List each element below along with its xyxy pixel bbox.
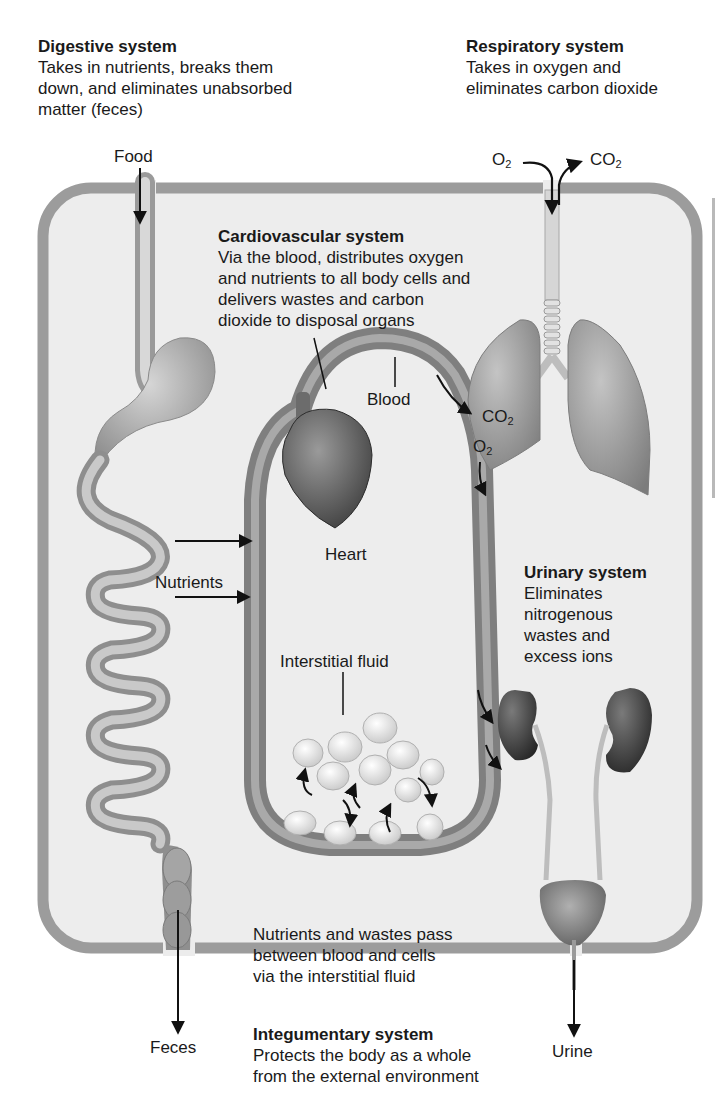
food-label: Food: [114, 147, 153, 167]
urinary-line: excess ions: [524, 646, 647, 667]
o2-text: O: [473, 437, 486, 456]
digestive-system-caption: Digestive system Takes in nutrients, bre…: [38, 36, 292, 120]
blood-label: Blood: [367, 390, 410, 410]
co2-text: CO: [590, 150, 616, 169]
subscript: 2: [616, 158, 622, 170]
heart-label: Heart: [325, 545, 367, 565]
cardiovascular-line: Via the blood, distributes oxygen: [218, 247, 470, 268]
exchange-note-line: Nutrients and wastes pass: [253, 924, 452, 945]
urinary-title: Urinary system: [524, 562, 647, 583]
respiratory-title: Respiratory system: [466, 36, 658, 57]
o2-intake-label: O2: [492, 150, 511, 174]
integumentary-line: Protects the body as a whole: [253, 1045, 479, 1066]
page-edge: [712, 198, 715, 498]
feces-label: Feces: [150, 1038, 196, 1058]
co2-lung-label: CO2: [482, 407, 514, 431]
co2-text: CO: [482, 407, 508, 426]
digestive-line: Takes in nutrients, breaks them: [38, 57, 292, 78]
digestive-line: matter (feces): [38, 99, 292, 120]
respiratory-line: eliminates carbon dioxide: [466, 78, 658, 99]
nutrients-label: Nutrients: [155, 573, 223, 593]
co2-output-label: CO2: [590, 150, 622, 174]
subscript: 2: [505, 158, 511, 170]
urinary-line: Eliminates: [524, 583, 647, 604]
integumentary-line: from the external environment: [253, 1066, 479, 1087]
exchange-note-line: between blood and cells: [253, 945, 452, 966]
cardiovascular-line: delivers wastes and carbon: [218, 289, 470, 310]
cardiovascular-system-caption: Cardiovascular system Via the blood, dis…: [218, 226, 470, 331]
urinary-system-caption: Urinary system Eliminates nitrogenous wa…: [524, 562, 647, 667]
respiratory-line: Takes in oxygen and: [466, 57, 658, 78]
integumentary-system-caption: Integumentary system Protects the body a…: [253, 1024, 479, 1087]
exchange-note-line: via the interstitial fluid: [253, 966, 452, 987]
cardiovascular-title: Cardiovascular system: [218, 226, 470, 247]
cardiovascular-line: and nutrients to all body cells and: [218, 268, 470, 289]
urine-label: Urine: [552, 1042, 593, 1062]
integumentary-title: Integumentary system: [253, 1024, 479, 1045]
subscript: 2: [508, 415, 514, 427]
o2-lung-label: O2: [473, 437, 492, 461]
urinary-line: wastes and: [524, 625, 647, 646]
exchange-note: Nutrients and wastes pass between blood …: [253, 924, 452, 987]
urinary-line: nitrogenous: [524, 604, 647, 625]
respiratory-system-caption: Respiratory system Takes in oxygen and e…: [466, 36, 658, 99]
cardiovascular-line: dioxide to disposal organs: [218, 310, 470, 331]
o2-text: O: [492, 150, 505, 169]
interstitial-fluid-label: Interstitial fluid: [280, 652, 389, 672]
subscript: 2: [486, 445, 492, 457]
digestive-line: down, and eliminates unabsorbed: [38, 78, 292, 99]
digestive-title: Digestive system: [38, 36, 292, 57]
